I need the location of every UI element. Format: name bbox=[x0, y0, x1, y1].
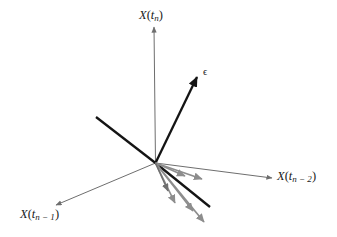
axis-label-x-tn-minus-2-sub: n − 2 bbox=[292, 174, 312, 184]
axis-label-x-tn-minus-1: X(tn − 1) bbox=[20, 208, 59, 222]
axis-label-x-tn: X(tn) bbox=[139, 9, 163, 23]
axis-label-x-tn-minus-1-close: ) bbox=[55, 207, 59, 221]
vector-diagram-figure: X(tn) X(tn − 2) X(tn − 1) ϵ bbox=[0, 0, 337, 237]
axis-label-x-tn-close: ) bbox=[159, 8, 163, 22]
axes-group bbox=[56, 27, 272, 205]
vectors-group bbox=[96, 77, 210, 222]
x-tn-1-axis bbox=[56, 163, 156, 205]
epsilon-label: ϵ bbox=[203, 67, 207, 78]
axis-label-x-tn-minus-2: X(tn − 2) bbox=[277, 170, 316, 184]
axis-label-x-tn-minus-1-base: X bbox=[20, 207, 28, 221]
epsilon-vector bbox=[156, 77, 198, 163]
axis-label-x-tn-minus-1-sub: n − 1 bbox=[35, 212, 55, 222]
axis-label-x-tn-minus-2-base: X bbox=[277, 169, 285, 183]
axis-label-x-tn-base: X bbox=[139, 8, 147, 22]
axis-label-x-tn-minus-2-close: ) bbox=[312, 169, 316, 183]
upper-left-vector bbox=[96, 117, 156, 163]
x-tn-axis bbox=[154, 27, 156, 163]
black-fan-vector bbox=[156, 163, 211, 207]
vector-canvas bbox=[0, 0, 337, 237]
